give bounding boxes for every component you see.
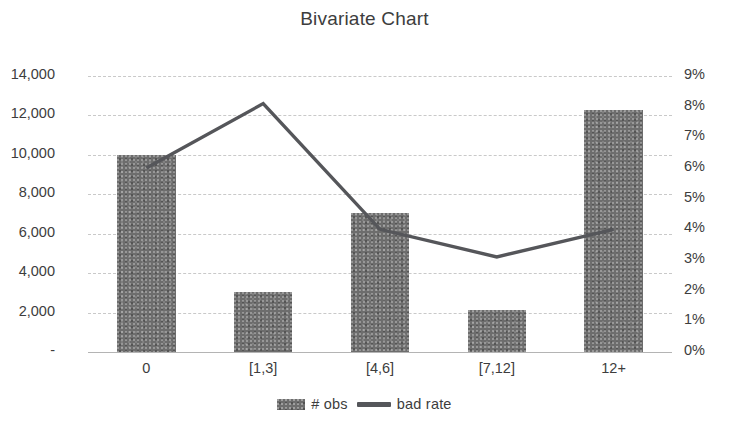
bar-swatch-icon — [277, 399, 305, 410]
right-axis-tick-label: 4% — [684, 219, 729, 235]
line-swatch-icon — [357, 402, 391, 407]
right-axis-tick-label: 1% — [684, 311, 729, 327]
chart-title: Bivariate Chart — [0, 8, 729, 30]
bivariate-chart: Bivariate Chart -2,0004,0006,0008,00010,… — [0, 0, 729, 427]
category-tick-label: 12+ — [555, 360, 672, 376]
legend-entry[interactable]: bad rate — [357, 396, 452, 412]
left-axis-tick-label: - — [0, 342, 55, 358]
left-axis-tick-label: 8,000 — [0, 184, 55, 200]
left-axis-tick-label: 4,000 — [0, 263, 55, 279]
left-axis-tick-label: 14,000 — [0, 66, 55, 82]
line-series — [88, 76, 672, 352]
category-tick-label: [7,12] — [438, 360, 555, 376]
right-axis-tick-label: 7% — [684, 127, 729, 143]
category-tick-label: 0 — [88, 360, 205, 376]
legend-entry[interactable]: # obs — [277, 396, 347, 412]
right-axis-tick-label: 9% — [684, 66, 729, 82]
right-axis-tick-label: 5% — [684, 189, 729, 205]
left-axis-tick-label: 6,000 — [0, 224, 55, 240]
right-axis-tick-label: 6% — [684, 158, 729, 174]
category-tick-label: [1,3] — [205, 360, 322, 376]
right-axis-tick-label: 0% — [684, 342, 729, 358]
left-axis-tick-label: 2,000 — [0, 303, 55, 319]
left-axis-tick-label: 10,000 — [0, 145, 55, 161]
category-tick-label: [4,6] — [322, 360, 439, 376]
right-axis-tick-label: 8% — [684, 97, 729, 113]
chart-legend: # obsbad rate — [0, 396, 729, 412]
left-axis-tick-label: 12,000 — [0, 105, 55, 121]
legend-label: # obs — [311, 396, 347, 412]
right-axis-tick-label: 2% — [684, 281, 729, 297]
bad-rate-line — [146, 104, 613, 257]
gridline — [88, 352, 672, 353]
legend-label: bad rate — [397, 396, 452, 412]
plot-area — [88, 76, 672, 352]
right-axis-tick-label: 3% — [684, 250, 729, 266]
